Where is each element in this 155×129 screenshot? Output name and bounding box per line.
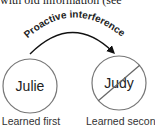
- interference-arrow: [30, 32, 113, 54]
- julie-label: Julie: [16, 78, 45, 94]
- proactive-interference-diagram: Proactive interference Julie Judy: [0, 0, 155, 129]
- caption-learned-first: Learned first: [0, 115, 62, 127]
- caption-learned-second: Learned second: [86, 115, 154, 127]
- arc-label: Proactive interference: [22, 8, 128, 40]
